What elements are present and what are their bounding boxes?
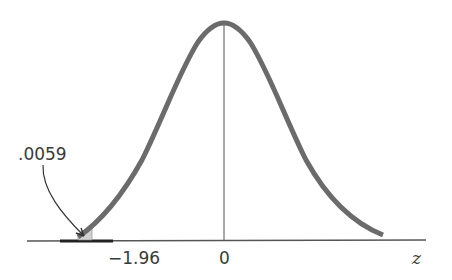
tail-area-label: .0059 [18,146,67,163]
normal-curve-figure [0,0,452,280]
normal-curve [78,23,383,237]
annotation-arrow [43,165,84,236]
axis-variable-label: z [412,250,421,267]
critical-value-label: −1.96 [108,250,160,267]
center-label: 0 [219,250,230,267]
